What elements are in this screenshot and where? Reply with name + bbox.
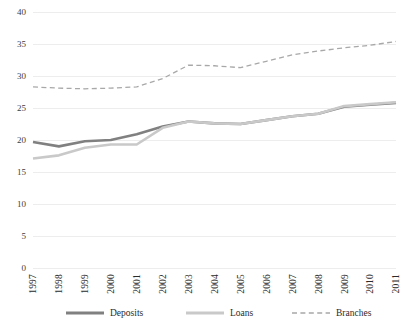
y-tick-label: 40 [17,7,27,17]
x-tick-label: 2008 [314,274,324,294]
y-tick-label: 30 [17,71,27,81]
line-chart: 0510152025303540 19971998199920002001200… [0,0,406,325]
x-tick-label: 2005 [236,274,246,294]
x-tick-label: 1999 [80,274,90,294]
x-tick-label: 2011 [391,274,401,293]
chart-legend: DepositsLoansBranches [66,308,372,318]
x-tick-label: 2006 [262,274,272,294]
series-line-loans [33,102,396,158]
chart-container: 0510152025303540 19971998199920002001200… [0,0,406,325]
x-tick-label: 1997 [28,274,38,294]
y-tick-label: 0 [22,263,27,273]
y-tick-label: 10 [17,199,27,209]
y-axis-tick-labels: 0510152025303540 [17,7,27,273]
x-tick-label: 2004 [210,274,220,294]
x-tick-label: 2007 [288,274,298,294]
legend-label-loans: Loans [230,308,254,318]
x-tick-label: 2003 [184,274,194,294]
series-line-branches [33,41,396,88]
y-tick-label: 15 [17,167,27,177]
y-tick-label: 35 [17,39,27,49]
series-lines [33,41,396,158]
x-tick-label: 2002 [158,274,168,294]
x-tick-label: 2010 [365,274,375,294]
x-axis-tick-labels: 1997199819992000200120022003200420052006… [28,274,401,294]
y-tick-label: 20 [17,135,27,145]
y-tick-label: 5 [22,231,27,241]
legend-label-branches: Branches [336,308,372,318]
x-tick-label: 2001 [132,274,142,294]
x-tick-label: 2009 [340,274,350,294]
y-tick-label: 25 [17,103,27,113]
x-tick-label: 2000 [106,274,116,294]
legend-label-deposits: Deposits [110,308,144,318]
x-tick-label: 1998 [54,274,64,294]
